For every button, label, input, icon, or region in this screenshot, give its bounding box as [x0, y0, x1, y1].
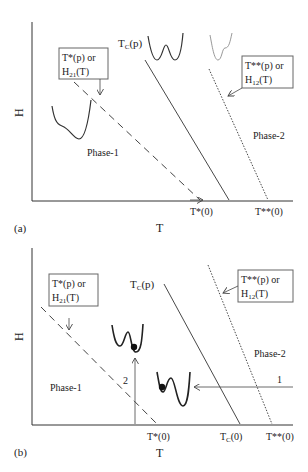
tick-tc0: TC(0) — [220, 431, 242, 444]
asymmetric-well-potential-icon — [52, 100, 91, 139]
phase-2-label: Phase-2 — [254, 348, 286, 359]
y-axis-label: H — [12, 332, 26, 341]
tc-label: TC(p) — [130, 278, 155, 292]
double-well-potential-icon — [112, 324, 143, 352]
phase-1-label: Phase-1 — [87, 147, 119, 158]
panel-tag: (a) — [14, 222, 27, 235]
panel-b: H T (b) T*(p) or H21(T) T**(p) or H12(T)… — [12, 248, 294, 460]
tick-tstar0: T*(0) — [190, 206, 213, 218]
box-line1: T**(p) or — [245, 60, 284, 72]
tick-tstar0: T*(0) — [147, 431, 170, 443]
x-axis-label: T — [156, 446, 164, 460]
state-ball-icon — [159, 384, 165, 390]
x-axis-label: T — [156, 221, 164, 235]
phase-diagram-figure: H T (a) T*(p) or H21(T) T**(p) or H12(T)… — [0, 0, 308, 472]
tc-label: TC(p) — [118, 37, 143, 51]
tstar-boundary-line — [74, 82, 200, 200]
path-2-label: 2 — [123, 375, 128, 386]
phase-2-label: Phase-2 — [253, 130, 285, 141]
state-ball-icon — [131, 344, 137, 350]
double-well-potential-icon — [148, 33, 183, 60]
box-line1: T*(p) or — [52, 278, 86, 290]
tick-tstarstar0: T**(0) — [266, 431, 294, 443]
panel-a: H T (a) T*(p) or H21(T) T**(p) or H12(T)… — [12, 22, 293, 235]
box-line1: T*(p) or — [62, 52, 96, 64]
tstar-boundary-line — [41, 307, 158, 425]
panel-tag: (b) — [14, 446, 27, 459]
phase-1-label: Phase-1 — [50, 382, 82, 393]
box-line1: T**(p) or — [241, 274, 280, 286]
tick-tstarstar0: T**(0) — [255, 206, 283, 218]
single-well-potential-icon — [210, 33, 232, 60]
y-axis-label: H — [12, 108, 26, 117]
tc-boundary-line — [164, 284, 240, 424]
tc-boundary-line — [145, 60, 229, 200]
path-1-label: 1 — [277, 374, 282, 385]
tstarstar-pointer-arrow — [223, 286, 238, 293]
tstarstar-pointer-arrow — [228, 88, 242, 96]
